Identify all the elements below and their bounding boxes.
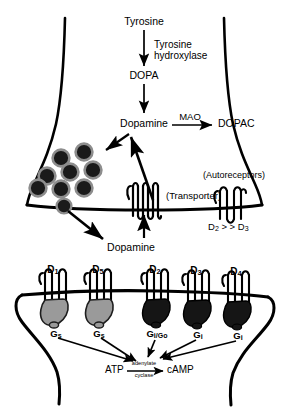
label-g-protein-D5: Gs [93,329,104,340]
arrow-exocytosis-release [68,211,103,239]
label-mao: MAO [179,112,201,123]
label-camp: cAMP [167,364,194,375]
label-g-protein-D1: Gs [50,329,61,340]
label-g-protein-D2: Gi/Go [146,329,167,340]
arrow-Gi-D2-to-cyclase [148,340,155,357]
label-dopa: DOPA [130,70,159,82]
autoreceptor-d3: D [238,221,245,232]
dopamine-synapse-figure: Tyrosine Tyrosine hydroxylase DOPA Dopam… [0,0,289,414]
label-autoreceptor-subtypes: D2 > > D3 [208,222,249,233]
label-tyrosine-hydroxylase-line1: Tyrosine [154,39,207,50]
label-dopamine-cytoplasmic: Dopamine [120,118,168,130]
label-g-protein-D3: Gi [193,330,202,341]
label-tyrosine-hydroxylase-line2: hydroxylase [154,50,207,61]
label-receptor-D5: D5 [92,264,103,277]
arrow-Gi-D4-to-cyclase [163,341,236,359]
g-protein-signalling-arrows [58,338,236,361]
label-atp: ATP [105,364,124,375]
label-g-protein-D4: Gi [233,331,242,342]
synaptic-vesicle-cluster [30,144,102,214]
receptor-D5 [84,269,113,328]
label-tyrosine-hydroxylase: Tyrosine hydroxylase [154,39,207,61]
arrow-Gs-D1-to-cyclase [58,338,133,361]
arrow-Gs-D5-to-cyclase [101,338,136,361]
diagram-canvas [0,0,289,414]
receptor-D4 [222,271,251,330]
label-receptor-D3: D3 [190,265,201,278]
label-transporter: (Transporter) [166,191,221,202]
dopamine-transporter-icon [127,183,161,219]
label-receptor-D4: D4 [230,266,241,279]
autoreceptor-relation: > > [219,221,238,232]
label-dopamine-released: Dopamine [107,242,155,254]
label-cyclase: cyclase [135,372,154,378]
label-adenylate: adenylate [132,360,156,366]
label-receptor-D1: D1 [47,264,58,277]
label-dopac: DOPAC [218,118,255,130]
autoreceptor-d2: D [208,221,215,232]
label-receptor-D2: D2 [149,264,160,277]
receptor-D3 [182,270,211,329]
arrow-dopamine-into-vesicles [106,134,129,150]
label-autoreceptors: (Autoreceptors) [203,170,265,180]
receptor-D2 [141,269,170,328]
label-tyrosine: Tyrosine [124,16,164,28]
autoreceptor-d3-sub: 3 [245,225,249,232]
receptor-D1 [39,269,68,328]
